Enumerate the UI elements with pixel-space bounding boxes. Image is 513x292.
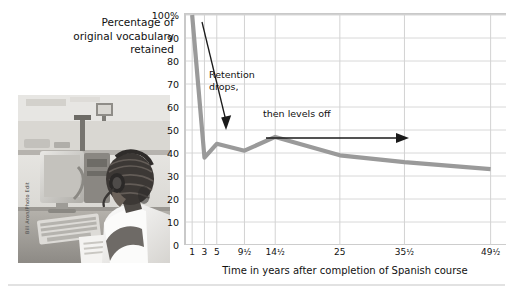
annotation-retention-line-2: drops, bbox=[209, 81, 255, 93]
y-axis-tick-90: 90 bbox=[167, 33, 179, 44]
x-axis-title: Time in years after completion of Spanis… bbox=[184, 265, 506, 276]
annotation-retention-drops: Retention drops, bbox=[209, 69, 255, 93]
x-axis-labels: 1359¹⁄₂14¹⁄₂2535¹⁄₂49¹⁄₂ bbox=[184, 247, 513, 263]
x-axis-tick-25: 25 bbox=[334, 247, 345, 257]
y-axis-tick-30: 30 bbox=[167, 171, 179, 182]
annotation-levels-off: then levels off bbox=[263, 108, 331, 120]
horizontal-gridlines bbox=[186, 15, 506, 245]
photo-credit: Bill Aron/Photo Edit bbox=[24, 94, 30, 234]
y-axis-tick-100: 100% bbox=[152, 10, 179, 21]
plot-area: Retention drops, then levels off bbox=[184, 13, 506, 245]
x-axis-tick-3: 3 bbox=[202, 247, 208, 257]
y-axis-labels: 100%9080706050403020100 bbox=[139, 13, 179, 245]
bottom-divider bbox=[8, 284, 505, 286]
y-axis-tick-80: 80 bbox=[167, 56, 179, 67]
x-axis-tick-9-5: 9¹⁄₂ bbox=[238, 247, 251, 257]
x-axis-tick-35-5: 35¹⁄₂ bbox=[395, 247, 414, 257]
x-axis-tick-5: 5 bbox=[214, 247, 220, 257]
annotation-levels-line-1: then levels off bbox=[263, 108, 331, 120]
y-axis-tick-0: 0 bbox=[173, 240, 179, 251]
figure-container: Bill Aron/Photo Edit Percentage of origi… bbox=[0, 0, 513, 292]
x-axis-tick-49-5: 49¹⁄₂ bbox=[481, 247, 500, 257]
y-axis-tick-10: 10 bbox=[167, 217, 179, 228]
y-axis-tick-60: 60 bbox=[167, 102, 179, 113]
y-axis-tick-50: 50 bbox=[167, 125, 179, 136]
y-axis-tick-20: 20 bbox=[167, 194, 179, 205]
x-axis-tick-14-5: 14¹⁄₂ bbox=[266, 247, 285, 257]
y-axis-tick-70: 70 bbox=[167, 79, 179, 90]
y-axis-tick-40: 40 bbox=[167, 148, 179, 159]
chart-svg bbox=[184, 13, 506, 245]
x-axis-tick-1: 1 bbox=[189, 247, 195, 257]
annotation-retention-line-1: Retention bbox=[209, 69, 255, 81]
